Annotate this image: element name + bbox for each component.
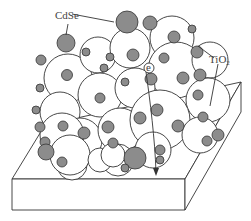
cdse-leader-line-2 <box>66 24 68 35</box>
substrate-front-face <box>12 179 185 210</box>
electron-symbol: e <box>146 61 151 73</box>
cdse-label: CdSe <box>55 9 79 21</box>
cdse-tio2-diagram: e CdSe TiO2 <box>0 0 251 221</box>
